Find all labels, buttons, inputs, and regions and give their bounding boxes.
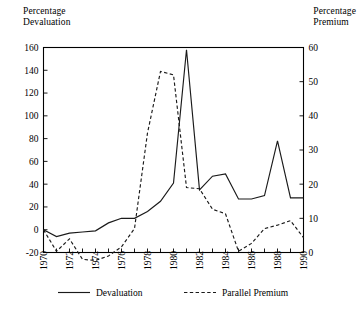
left-tick-label: 140 [24,66,39,76]
left-tick-label: 160 [24,43,39,53]
x-tick-label: 1978 [143,251,153,270]
chart-legend: DevaluationParallel Premium [58,288,289,298]
legend-label: Devaluation [96,288,143,298]
x-tick-label: 1990 [299,251,309,270]
x-axis-ticks: 1970197219741976197819801982198419861988… [39,249,309,271]
right-tick-label: 60 [309,43,319,53]
left-tick-label: 120 [24,88,39,98]
right-tick-label: 40 [309,111,319,121]
x-tick-label: 1980 [169,251,179,270]
right-tick-label: 10 [309,214,319,224]
x-tick-label: 1972 [65,251,75,270]
left-tick-label: 60 [29,157,39,167]
left-tick-label: 80 [29,134,39,144]
right-tick-label: 0 [309,248,314,258]
left-tick-label: 0 [34,225,39,235]
chart-plot: -20020406080100120140160 0102030405060 1… [0,0,362,318]
x-tick-label: 1984 [221,251,231,270]
left-tick-label: -20 [26,248,39,258]
x-tick-label: 1970 [39,251,49,270]
x-tick-label: 1982 [195,251,205,270]
right-axis-ticks: 0102030405060 [300,43,319,258]
x-tick-label: 1988 [273,251,283,270]
chart-container: Percentage Devaluation Percentage Premiu… [0,0,362,318]
x-tick-label: 1986 [247,251,257,270]
left-tick-label: 100 [24,111,39,121]
legend-label: Parallel Premium [222,288,289,298]
right-tick-label: 30 [309,145,319,155]
left-tick-label: 40 [29,180,39,190]
left-tick-label: 20 [29,202,39,212]
x-tick-label: 1976 [117,251,127,270]
right-tick-label: 20 [309,180,319,190]
series-layer [44,50,304,261]
right-tick-label: 50 [309,77,319,87]
